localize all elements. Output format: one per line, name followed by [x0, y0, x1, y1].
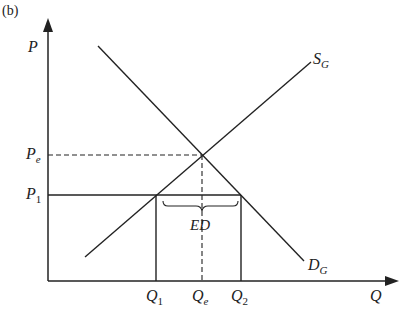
supply-demand-diagram: (b) P Q SG DG ED Pe P1 Q1 Qe Q2	[0, 0, 404, 311]
excess-demand-brace	[163, 201, 238, 211]
y-axis-label: P	[27, 38, 38, 55]
p1-label: P1	[25, 185, 41, 205]
pe-label: Pe	[25, 145, 41, 165]
x-axis-label: Q	[370, 287, 382, 304]
y-axis-arrow-icon	[43, 18, 53, 32]
q2-label: Q2	[231, 287, 248, 307]
excess-demand-label: ED	[189, 217, 210, 233]
x-axis-arrow-icon	[385, 276, 399, 286]
qe-label: Qe	[192, 287, 209, 307]
panel-label: (b)	[2, 3, 19, 19]
q1-label: Q1	[146, 287, 163, 307]
supply-label: SG	[313, 50, 329, 70]
demand-label: DG	[307, 256, 328, 276]
